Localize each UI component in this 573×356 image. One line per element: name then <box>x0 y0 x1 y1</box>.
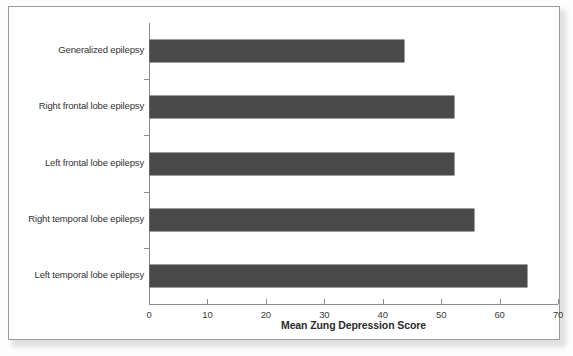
y-axis-tick <box>144 248 149 249</box>
plot-area: 010203040506070 <box>149 23 558 304</box>
x-axis-tick <box>558 299 559 304</box>
figure-frame: Generalized epilepsy Right frontal lobe … <box>8 6 560 340</box>
x-axis-title: Mean Zung Depression Score <box>149 319 558 331</box>
category-label-left-temporal-lobe-epilepsy: Left temporal lobe epilepsy <box>35 269 145 280</box>
bar <box>150 40 404 62</box>
x-axis-tick <box>383 299 384 304</box>
y-axis-tick <box>144 192 149 193</box>
x-axis-tick <box>500 299 501 304</box>
category-label-right-frontal-lobe-epilepsy: Right frontal lobe epilepsy <box>39 100 144 111</box>
bar <box>150 96 454 118</box>
category-axis-labels: Generalized epilepsy Right frontal lobe … <box>9 23 149 304</box>
bar <box>150 265 527 287</box>
x-axis-tick <box>324 299 325 304</box>
x-axis-tick <box>441 299 442 304</box>
category-label-generalized-epilepsy: Generalized epilepsy <box>58 44 144 55</box>
category-label-left-frontal-lobe-epilepsy: Left frontal lobe epilepsy <box>45 157 144 168</box>
figure-root: Generalized epilepsy Right frontal lobe … <box>0 0 573 356</box>
y-axis-tick <box>144 79 149 80</box>
y-axis-tick <box>144 135 149 136</box>
x-axis-line <box>149 304 558 305</box>
x-axis-tick <box>149 299 150 304</box>
bar <box>150 209 474 231</box>
bar <box>150 153 454 175</box>
category-label-right-temporal-lobe-epilepsy: Right temporal lobe epilepsy <box>28 213 144 224</box>
x-axis-tick <box>207 299 208 304</box>
x-axis-tick <box>266 299 267 304</box>
